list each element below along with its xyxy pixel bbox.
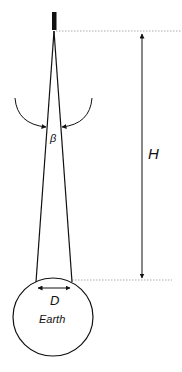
cone-right-edge [54, 31, 72, 282]
satellite-sensor [52, 12, 57, 30]
beta-angle-arc-right [62, 98, 92, 127]
diameter-label: D [50, 293, 59, 308]
diagram-canvas: β H D Earth [0, 0, 182, 372]
height-label: H [148, 145, 159, 162]
earth-label: Earth [39, 313, 65, 325]
cone-left-edge [36, 31, 54, 282]
beta-angle-arc-left [15, 98, 46, 127]
angle-label: β [49, 132, 57, 144]
